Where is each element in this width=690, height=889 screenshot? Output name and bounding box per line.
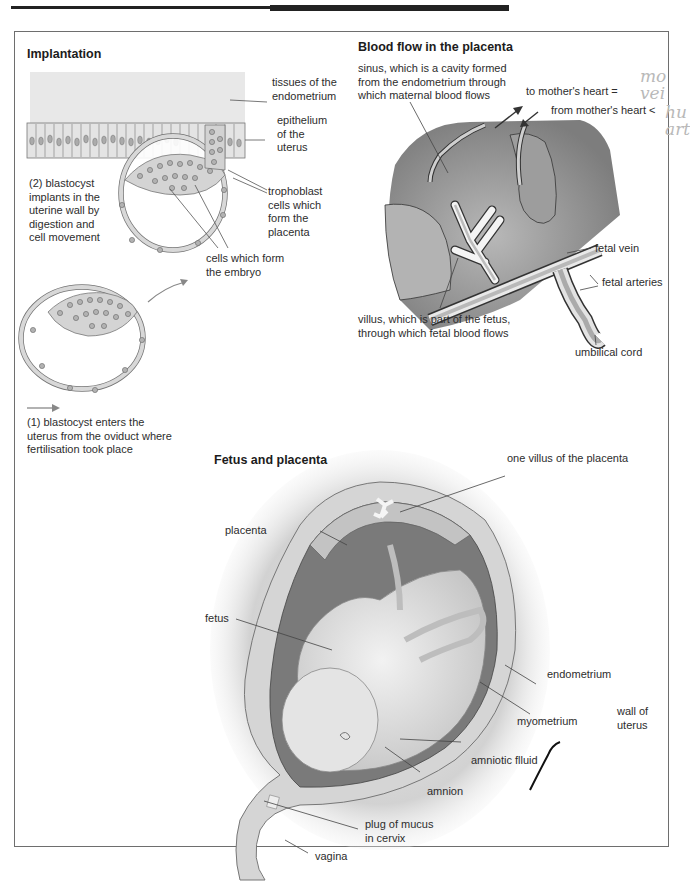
label-myometrium: myometrium <box>517 715 578 729</box>
label-one-villus: one villus of the placenta <box>507 452 628 466</box>
handwritten-note-veins: mo vei <box>640 68 666 102</box>
label-from-mothers-heart: from mother's heart < <box>551 104 656 118</box>
label-epithelium: epithelium of the uterus <box>277 114 327 155</box>
label-sinus: sinus, which is a cavity formed from the… <box>358 62 507 103</box>
label-trophoblast: trophoblast cells which form the placent… <box>268 185 322 239</box>
label-step2-implant: (2) blastocyst implants in the uterine w… <box>29 177 100 245</box>
label-fetus: fetus <box>205 612 229 626</box>
label-embryo-cells: cells which form the embryo <box>206 252 284 279</box>
blood-flow-title: Blood flow in the placenta <box>358 40 513 54</box>
label-endometrium-tissue: tissues of the endometrium <box>272 76 337 103</box>
handwritten-note-arteries: hu art <box>665 104 690 138</box>
label-endometrium: endometrium <box>547 668 611 682</box>
placenta-blood-flow-diagram <box>385 102 620 345</box>
label-wall-of-uterus: wall of uterus <box>617 705 648 732</box>
label-step1-enters: (1) blastocyst enters the uterus from th… <box>27 416 172 457</box>
label-fetal-vein: fetal vein <box>595 242 639 256</box>
implantation-title: Implantation <box>27 47 101 61</box>
endometrium-tissue <box>30 72 245 124</box>
label-to-mothers-heart: to mother's heart = <box>526 85 618 99</box>
fetus-placenta-title: Fetus and placenta <box>214 453 327 467</box>
label-amniotic-fluid: amniotic flluid <box>471 754 538 768</box>
label-plug-of-mucus: plug of mucus in cervix <box>365 818 433 845</box>
label-umbilical-cord: umbilical cord <box>575 346 642 360</box>
label-vagina: vagina <box>315 850 347 864</box>
label-villus: villus, which is part of the fetus, thro… <box>358 313 510 340</box>
label-placenta: placenta <box>225 524 267 538</box>
fetus-placenta-diagram <box>210 450 560 880</box>
label-amnion: amnion <box>427 785 463 799</box>
label-fetal-arteries: fetal arteries <box>602 276 663 290</box>
